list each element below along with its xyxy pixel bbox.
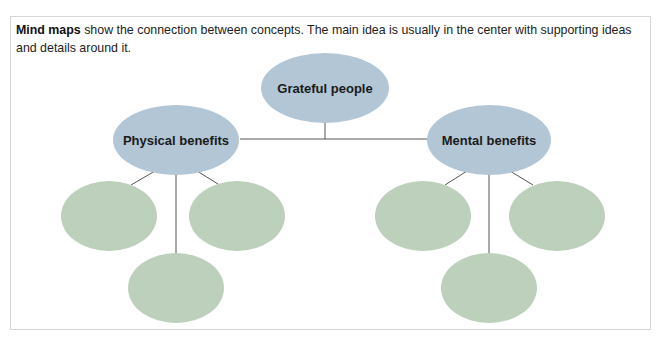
connector-right-detail-1	[445, 171, 467, 185]
detail-node-physical-2	[189, 181, 285, 251]
detail-node-mental-2	[509, 181, 605, 251]
connector-left-detail-2	[197, 171, 218, 184]
branch-node-mental: Mental benefits	[427, 105, 551, 175]
branch-node-physical: Physical benefits	[113, 105, 239, 175]
mind-map-diagram: Grateful people Physical benefits Mental…	[0, 0, 660, 337]
main-idea-node: Grateful people	[261, 53, 389, 123]
branch-label-physical: Physical benefits	[123, 133, 229, 148]
detail-node-physical-3	[128, 253, 224, 323]
detail-node-mental-1	[375, 181, 471, 251]
main-idea-label: Grateful people	[277, 81, 372, 96]
connector-left-detail-1	[131, 171, 155, 185]
detail-node-mental-3	[441, 253, 537, 323]
detail-node-physical-1	[61, 181, 157, 251]
connector-right-detail-2	[510, 171, 533, 185]
branch-label-mental: Mental benefits	[442, 133, 537, 148]
